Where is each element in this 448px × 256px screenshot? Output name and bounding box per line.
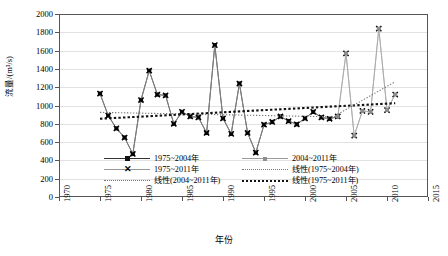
y-tick-mark — [55, 87, 59, 88]
grid-line — [60, 106, 427, 107]
y-tick-mark — [55, 106, 59, 107]
y-tick-label: 1600 — [19, 47, 53, 56]
legend-key-icon — [104, 175, 150, 186]
legend-key-icon — [242, 153, 288, 164]
legend-left-column: 1975~2004年✕1975~2011年线性(2004~2011年) — [104, 153, 220, 186]
y-tick-mark — [55, 14, 59, 15]
x-tick-label: 1985 — [186, 185, 195, 202]
x-tick-mark — [387, 197, 388, 201]
legend-item-left-1[interactable]: ✕1975~2011年 — [104, 164, 220, 175]
y-tick-label: 800 — [19, 120, 53, 129]
x-tick-label: 2015 — [432, 185, 441, 202]
legend-item-left-0[interactable]: 1975~2004年 — [104, 153, 220, 164]
legend-item-label: 1975~2004年 — [150, 154, 199, 163]
y-tick-mark — [55, 160, 59, 161]
x-tick-label: 1970 — [63, 185, 72, 202]
y-tick-mark — [55, 142, 59, 143]
x-tick-label: 2005 — [350, 185, 359, 202]
grid-line — [60, 69, 427, 70]
y-tick-label: 1000 — [19, 102, 53, 111]
x-tick-mark — [59, 197, 60, 201]
y-tick-mark — [55, 32, 59, 33]
legend-item-right-0[interactable]: 2004~2011年 — [242, 153, 359, 164]
x-tick-label: 1990 — [227, 185, 236, 202]
grid-line — [60, 32, 427, 33]
grid-line — [60, 87, 427, 88]
legend-item-label: 1975~2011年 — [150, 165, 199, 174]
x-tick-label: 2000 — [309, 185, 318, 202]
y-tick-label: 2000 — [19, 10, 53, 19]
grid-line — [60, 51, 427, 52]
legend-item-label: 线性(1975~2004年) — [288, 165, 359, 174]
y-tick-mark — [55, 69, 59, 70]
chart-figure: 0200400600800100012001400160018002000 流量… — [0, 0, 448, 256]
legend-item-label: 2004~2011年 — [288, 154, 337, 163]
legend-item-label: 线性(1975~2011年) — [288, 176, 358, 185]
y-tick-label: 400 — [19, 156, 53, 165]
x-tick-mark — [428, 197, 429, 201]
legend-right-column: 2004~2011年线性(1975~2004年)线性(1975~2011年) — [242, 153, 359, 186]
x-tick-mark — [100, 197, 101, 201]
x-tick-label: 1980 — [145, 185, 154, 202]
y-tick-mark — [55, 51, 59, 52]
x-tick-label: 1995 — [268, 185, 277, 202]
x-tick-mark — [141, 197, 142, 201]
legend-key-icon — [242, 175, 288, 186]
x-tick-mark — [223, 197, 224, 201]
x-tick-mark — [182, 197, 183, 201]
y-tick-mark — [55, 124, 59, 125]
x-tick-label: 1975 — [104, 185, 113, 202]
grid-line — [60, 124, 427, 125]
y-axis-title: 流量/(m³/s) — [5, 37, 14, 117]
legend-item-left-2[interactable]: 线性(2004~2011年) — [104, 175, 220, 186]
legend-key-icon: ✕ — [104, 164, 150, 175]
x-tick-mark — [346, 197, 347, 201]
y-tick-label: 0 — [19, 193, 53, 202]
y-tick-label: 1200 — [19, 83, 53, 92]
y-tick-label: 1800 — [19, 28, 53, 37]
grid-line — [60, 142, 427, 143]
y-tick-label: 200 — [19, 175, 53, 184]
x-tick-label: 2010 — [391, 185, 400, 202]
x-axis-title: 年份 — [0, 233, 448, 246]
legend-key-icon — [104, 153, 150, 164]
legend-item-right-1[interactable]: 线性(1975~2004年) — [242, 164, 359, 175]
y-tick-label: 1400 — [19, 65, 53, 74]
y-tick-mark — [55, 179, 59, 180]
legend-item-label: 线性(2004~2011年) — [150, 176, 220, 185]
x-tick-mark — [305, 197, 306, 201]
x-tick-mark — [264, 197, 265, 201]
y-tick-label: 600 — [19, 138, 53, 147]
legend-key-icon — [242, 164, 288, 175]
legend-item-right-2[interactable]: 线性(1975~2011年) — [242, 175, 359, 186]
